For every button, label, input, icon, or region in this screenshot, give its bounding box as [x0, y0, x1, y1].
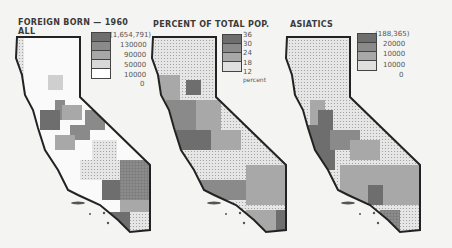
legend-label: 10000: [124, 71, 146, 79]
swatch-3: [223, 53, 241, 62]
legend-label: 0: [140, 80, 144, 88]
swatch-2: [358, 43, 376, 52]
swatch-2: [223, 44, 241, 53]
legend-label: 10000: [383, 61, 405, 69]
legend-swatches: [357, 33, 377, 71]
swatch-4: [223, 62, 241, 71]
map-percent: [136, 30, 296, 240]
legend-label: 0: [399, 71, 403, 79]
swatch-1: [223, 35, 241, 44]
legend-swatches: [91, 32, 111, 79]
legend-label: 20000: [383, 40, 405, 48]
swatch-4: [92, 60, 110, 69]
legend-swatches: [222, 34, 242, 72]
legend-label: (188,365): [375, 30, 409, 38]
legend-label: 50000: [124, 61, 146, 69]
legend-label: 10000: [383, 50, 405, 58]
legend-unit: percent: [243, 76, 266, 84]
swatch-1: [92, 33, 110, 42]
map-asiatics: [270, 30, 430, 240]
legend-label: 30: [243, 40, 252, 48]
swatch-2: [92, 42, 110, 51]
legend-label: 90000: [124, 51, 146, 59]
legend-label: 24: [243, 49, 252, 57]
swatch-1: [358, 34, 376, 43]
legend-label: 36: [243, 31, 252, 39]
swatch-3: [358, 52, 376, 61]
legend-label: 12: [243, 68, 252, 76]
swatch-5: [92, 69, 110, 78]
legend-label: 130000: [120, 41, 147, 49]
legend-label: 18: [243, 59, 252, 67]
legend-label: (1,654,791): [110, 31, 151, 39]
swatch-3: [92, 51, 110, 60]
swatch-4: [358, 61, 376, 70]
